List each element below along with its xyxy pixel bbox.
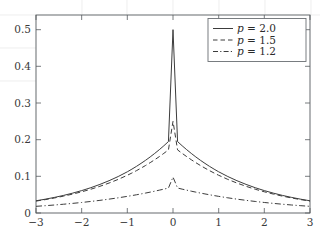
y-tick-label: 0.5 — [14, 23, 31, 35]
y-tick-label: 0.1 — [14, 170, 31, 182]
plot-figure: 0 0.1 0.2 0.3 0.4 0.5 −3 −2 −1 0 1 2 3 p… — [0, 0, 320, 242]
x-tick-label: −1 — [120, 216, 135, 228]
x-tick-label: 2 — [261, 216, 268, 228]
y-tick-label: 0.2 — [14, 133, 31, 145]
y-tick-label: 0.4 — [14, 60, 31, 72]
x-tick-label: 1 — [215, 216, 222, 228]
legend-label-p-1-5: p = 1.5 — [237, 34, 276, 46]
x-tick-label: −2 — [74, 216, 89, 228]
legend-label-p-1-2: p = 1.2 — [237, 45, 276, 57]
legend: p = 2.0 p = 1.5 p = 1.2 — [208, 19, 306, 62]
y-tick-label: 0.3 — [14, 97, 31, 109]
x-tick-label: 3 — [307, 216, 314, 228]
legend-label-p-2-0: p = 2.0 — [237, 22, 276, 34]
x-tick-label: −3 — [28, 216, 43, 228]
x-tick-label: 0 — [170, 216, 177, 228]
